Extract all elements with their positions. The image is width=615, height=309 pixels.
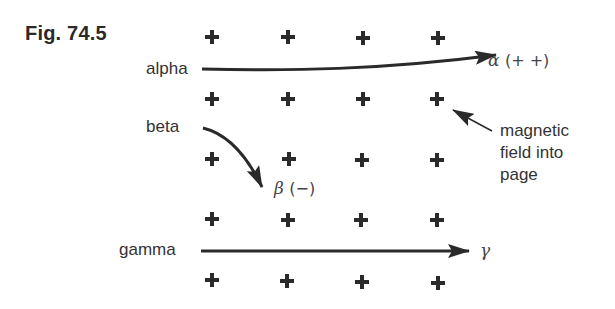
plus-icon bbox=[354, 213, 368, 227]
field-annotation-pointer bbox=[453, 110, 492, 131]
annotation-line-1: magnetic bbox=[500, 120, 569, 142]
alpha-charge: (+ +) bbox=[505, 51, 549, 70]
beta-charge: (−) bbox=[289, 179, 315, 198]
annotation-line-2: field into bbox=[500, 142, 569, 164]
plus-icon bbox=[205, 152, 219, 166]
plus-icon bbox=[355, 153, 369, 167]
alpha-symbol: α bbox=[488, 50, 499, 70]
plus-icon bbox=[205, 273, 219, 287]
magnetic-field-annotation: magnetic field into page bbox=[500, 120, 569, 186]
plus-icon bbox=[356, 31, 370, 45]
plus-icon bbox=[205, 30, 219, 44]
plus-icon bbox=[282, 152, 296, 166]
gamma-symbol: γ bbox=[480, 240, 490, 260]
field-row-5 bbox=[205, 273, 445, 290]
plus-icon bbox=[280, 274, 294, 288]
plus-icon bbox=[205, 92, 219, 106]
beta-result-label: β (−) bbox=[274, 180, 315, 197]
plus-icon bbox=[430, 92, 444, 106]
plus-icon bbox=[281, 92, 295, 106]
field-row-4 bbox=[205, 212, 444, 227]
annotation-line-3: page bbox=[500, 164, 569, 186]
beta-symbol: β bbox=[274, 178, 284, 198]
plus-icon bbox=[431, 31, 445, 45]
alpha-result-label: α (+ +) bbox=[488, 52, 549, 69]
plus-icon bbox=[430, 213, 444, 227]
alpha-ray-arrow bbox=[202, 55, 496, 70]
gamma-result-label: γ bbox=[480, 242, 490, 259]
plus-icon bbox=[281, 213, 295, 227]
field-row-2 bbox=[205, 92, 444, 106]
plus-icon bbox=[281, 30, 295, 44]
plus-icon bbox=[356, 92, 370, 106]
plus-icon bbox=[430, 153, 444, 167]
plus-icon bbox=[355, 275, 369, 289]
plus-icon bbox=[205, 212, 219, 226]
field-row-1 bbox=[205, 30, 445, 45]
plus-icon bbox=[431, 276, 445, 290]
